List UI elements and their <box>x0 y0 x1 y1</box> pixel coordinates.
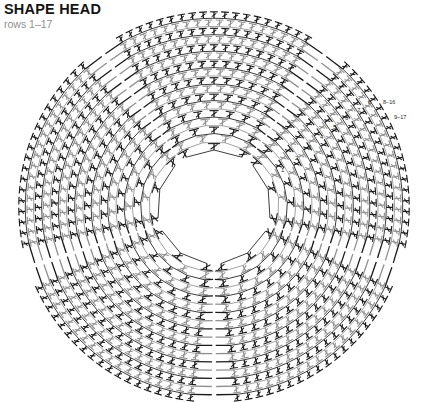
row-range-label: 8–16 <box>383 99 395 105</box>
crochet-stitch-diagram: 123456788–169–17 <box>0 0 434 402</box>
row-range-label: 9–17 <box>394 114 406 120</box>
crochet-chart-page: SHAPE HEAD rows 1–17 123456788–169–17 <box>0 0 434 402</box>
stitch-layer <box>19 12 409 401</box>
